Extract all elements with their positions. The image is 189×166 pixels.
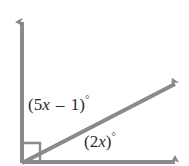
angle-diagram-figure: (5x – 1)° (2x)° (0, 0, 189, 166)
lower-angle-label: (2x)° (84, 131, 116, 150)
upper-angle-constant: 1 (71, 95, 80, 114)
upper-angle-coefficient: 5 (34, 95, 43, 114)
lower-angle-variable: x (98, 132, 106, 151)
lower-angle-degree-symbol: ° (111, 130, 115, 142)
upper-angle-label: (5x – 1)° (28, 94, 89, 113)
upper-angle-variable: x (42, 95, 50, 114)
upper-angle-degree-symbol: ° (85, 93, 89, 105)
lower-angle-coefficient: 2 (90, 132, 99, 151)
